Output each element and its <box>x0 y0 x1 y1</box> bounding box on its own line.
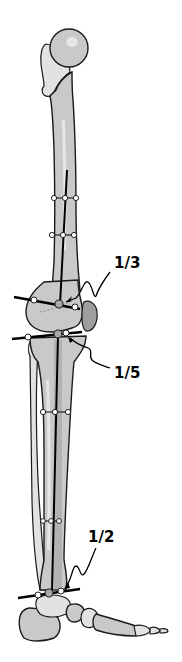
phalanx-proximal <box>134 625 150 636</box>
leg-skeleton-diagram: 1/3 1/5 1/2 <box>0 0 182 662</box>
femur-marker-node <box>71 232 76 237</box>
joint-node <box>25 334 31 340</box>
joint-node <box>63 330 69 336</box>
femur-marker-node <box>62 195 67 200</box>
fraction-label-knee-lower: 1/5 <box>114 364 140 382</box>
tibia-marker-node <box>49 519 54 524</box>
foot <box>19 595 168 641</box>
joint-node <box>72 304 78 310</box>
tibia-marker-node <box>41 519 46 524</box>
femur-marker-node <box>49 232 54 237</box>
phalanx-middle <box>150 627 160 634</box>
fraction-label-ankle: 1/2 <box>88 528 114 546</box>
femoral-head <box>50 29 88 67</box>
tibia-marker-node <box>52 409 57 414</box>
joint-center-node <box>54 330 62 338</box>
femur-marker-node <box>51 195 56 200</box>
joint-node <box>31 297 37 303</box>
joint-node <box>58 588 64 594</box>
femur-marker-node <box>60 232 65 237</box>
phalanx-distal <box>160 629 168 633</box>
joint-center-node <box>55 300 63 308</box>
talus <box>36 595 71 617</box>
metatarsals <box>93 614 139 636</box>
tibia-marker-node <box>40 409 45 414</box>
tibia-marker-node <box>65 409 70 414</box>
fraction-label-knee-upper: 1/3 <box>114 254 140 272</box>
tibia-marker-node <box>57 519 62 524</box>
patella <box>82 301 97 331</box>
leader-line-ankle <box>66 548 96 586</box>
joint-node <box>35 592 41 598</box>
femur-marker-node <box>73 195 78 200</box>
joint-center-node <box>45 589 53 597</box>
femur <box>26 29 88 332</box>
